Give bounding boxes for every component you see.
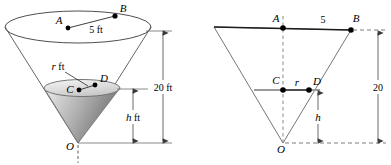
- point-A-label-right: A: [272, 12, 280, 24]
- point-B-label: B: [120, 2, 127, 14]
- right-cross-section-diagram: A B 5 C D r O 20 h: [214, 12, 391, 155]
- point-C-label-right: C: [272, 74, 280, 86]
- point-D-marker: [93, 83, 98, 88]
- point-O-label: O: [66, 140, 74, 152]
- left-cone-diagram: A B 5 ft C D r ft O 20 ft h ft: [5, 2, 178, 163]
- point-C-marker: [77, 88, 82, 93]
- point-D-label: D: [99, 72, 108, 84]
- point-A-label: A: [55, 14, 63, 26]
- point-B-marker: [112, 13, 117, 18]
- point-C-marker-right: [280, 87, 286, 93]
- diagram-svg: A B 5 ft C D r ft O 20 ft h ft: [0, 0, 391, 165]
- point-B-marker-right: [348, 27, 354, 33]
- label-height-water-right: h: [315, 111, 321, 123]
- figure-container: A B 5 ft C D r ft O 20 ft h ft: [0, 0, 391, 165]
- point-B-label-right: B: [353, 12, 360, 24]
- label-radius-inner-right: r: [295, 76, 300, 88]
- point-C-label: C: [66, 83, 74, 95]
- label-radius-top-right: 5: [321, 14, 326, 25]
- point-A-marker-right: [280, 25, 286, 31]
- label-radius-top-left: 5 ft: [89, 24, 103, 35]
- point-A-marker: [66, 26, 71, 31]
- point-O-label-right: O: [277, 143, 285, 155]
- label-height-water-left: h ft: [126, 111, 140, 123]
- point-D-marker-right: [306, 87, 312, 93]
- point-D-label-right: D: [312, 75, 321, 87]
- label-height-total-right: 20: [373, 82, 383, 93]
- label-radius-inner-left: r ft: [52, 60, 65, 72]
- label-height-total-left: 20 ft: [154, 82, 173, 93]
- cone-rim-ellipse: [5, 11, 151, 43]
